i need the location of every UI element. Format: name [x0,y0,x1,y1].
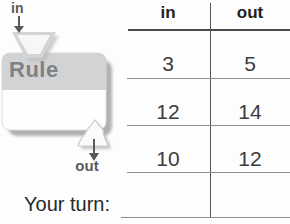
table-header-out: out [210,3,290,23]
worksheet: in Rule out in out 3 5 12 14 10 12 Your … [0,0,290,224]
machine-in-label: in [11,0,23,16]
table-cell-in: 3 [126,52,210,76]
table-cell-out: 5 [210,52,290,76]
answer-cell-out[interactable] [210,192,290,216]
in-arrow-icon [14,16,24,33]
table-row-rule [127,125,290,126]
table-header-in: in [126,3,210,23]
machine-out-label: out [68,157,106,174]
answer-blank-line[interactable] [121,217,290,218]
your-turn-label: Your turn: [24,193,110,216]
table-cell-out: 14 [210,100,290,124]
table-header-rule [128,29,290,31]
machine-rule-label: Rule [9,57,59,83]
answer-cell-in[interactable] [126,192,210,216]
function-machine-graphic [0,0,130,185]
table-cell-in: 10 [126,147,210,171]
table-row-rule [127,78,290,79]
table-row-rule [127,172,290,173]
table-cell-in: 12 [126,100,210,124]
table-cell-out: 12 [210,147,290,171]
